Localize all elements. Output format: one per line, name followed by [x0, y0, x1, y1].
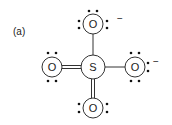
charge: − — [153, 56, 159, 67]
atom-symbol: S — [89, 61, 96, 73]
atom-symbol: O — [89, 18, 98, 30]
atom-oxygen-left: O — [42, 52, 62, 83]
atom-oxygen-right: O − — [125, 52, 159, 83]
atom-symbol: O — [48, 61, 57, 73]
atom-symbol: O — [89, 102, 98, 114]
atom-oxygen-bottom: O — [78, 98, 109, 118]
atom-sulfur: S — [81, 55, 105, 79]
charge: − — [117, 13, 123, 24]
atom-oxygen-top: O − — [78, 10, 123, 34]
atom-symbol: O — [131, 61, 140, 73]
lewis-structure: S O − O O − O — [0, 0, 172, 125]
